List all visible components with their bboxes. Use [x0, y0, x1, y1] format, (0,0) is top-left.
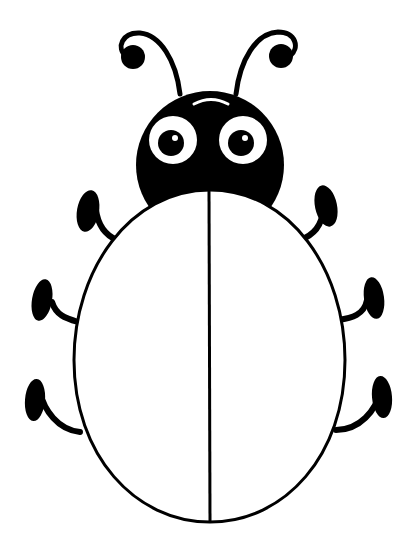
shell-center-line	[209, 190, 210, 522]
antennae	[121, 32, 295, 94]
leg-foot-icon	[361, 276, 387, 320]
leg-foot-icon	[311, 183, 341, 229]
leg-foot-icon	[29, 278, 56, 323]
ladybug-illustration	[0, 0, 416, 549]
leg-foot-icon	[23, 378, 47, 422]
right-pupil-icon	[228, 130, 254, 156]
ladybug-svg	[0, 0, 416, 549]
left-antenna-tip-icon	[121, 45, 145, 69]
right-antenna-tip-icon	[269, 44, 293, 68]
left-pupil-icon	[158, 130, 184, 156]
